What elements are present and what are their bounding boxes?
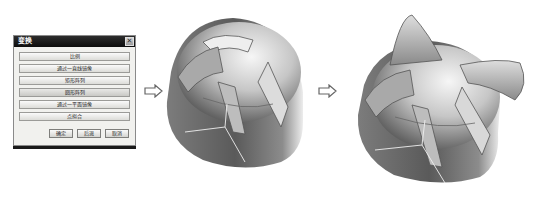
option-scale-button[interactable]: 比例: [19, 52, 130, 61]
close-icon: ✕: [127, 37, 133, 45]
dome-model-step1: [163, 12, 307, 172]
option-mirror-line-button[interactable]: 通过一直线镜像: [19, 64, 130, 73]
dialog-title: 变换: [18, 36, 32, 47]
right-arrow-icon: [144, 84, 164, 98]
back-button[interactable]: 后退: [77, 129, 101, 138]
dome-model-step2: [350, 5, 540, 195]
close-button[interactable]: ✕: [125, 37, 134, 46]
option-circular-array-button[interactable]: 圆形阵列: [19, 88, 130, 97]
ok-button[interactable]: 确定: [49, 129, 73, 138]
option-mirror-plane-button[interactable]: 通过一平面镜像: [19, 100, 130, 109]
right-arrow-icon: [318, 84, 338, 98]
option-rect-array-button[interactable]: 矩形阵列: [19, 76, 130, 85]
transform-dialog: 变换 ✕ 比例 通过一直线镜像 矩形阵列 圆形阵列 通过一平面镜像 点拟合 确定…: [13, 35, 136, 146]
option-point-fit-button[interactable]: 点拟合: [19, 112, 130, 121]
cancel-button[interactable]: 取消: [105, 129, 129, 138]
dialog-titlebar: 变换 ✕: [14, 36, 135, 47]
